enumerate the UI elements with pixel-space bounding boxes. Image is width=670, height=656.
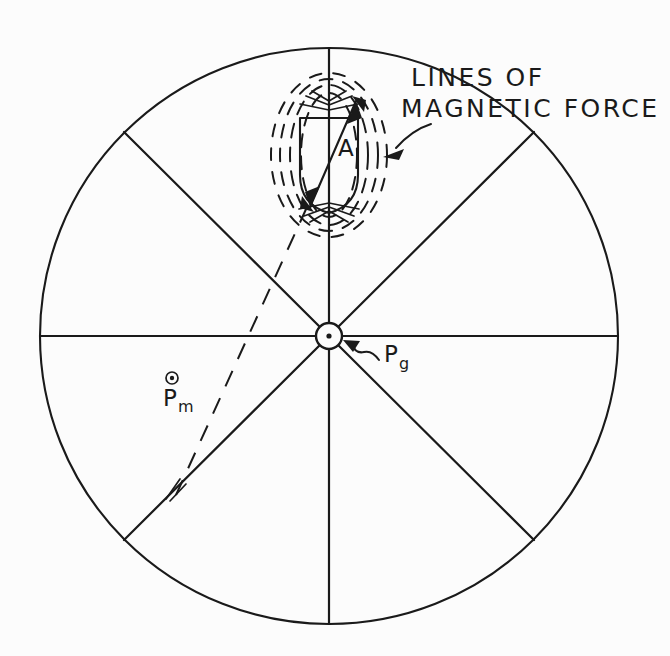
pm-label-main: P <box>163 385 177 411</box>
pg-label-main: P <box>384 341 398 367</box>
pm-label-group: P m <box>163 385 194 416</box>
pm-label-sub: m <box>178 397 194 416</box>
spoke-northwest <box>124 132 329 336</box>
pg-label-sub: g <box>399 354 409 373</box>
hub-center-dot <box>326 333 331 338</box>
pg-leader-line <box>352 345 379 360</box>
annotation-line-1: LINES OF <box>411 63 545 92</box>
spoke-southwest <box>124 336 329 540</box>
spoke-southeast <box>329 336 534 540</box>
coil-label: A <box>338 135 354 161</box>
pg-label-group: P g <box>384 341 409 373</box>
annotation-line-2: MAGNETIC FORCE <box>401 94 660 123</box>
technical-diagram: A LINES OF MAGNETIC FORCE P g P m <box>0 0 670 656</box>
pole-line-top-5 <box>300 104 329 110</box>
diagram-canvas: A LINES OF MAGNETIC FORCE P g P m <box>0 0 670 656</box>
pg-leader-arrowhead <box>343 340 360 352</box>
spoke-northeast <box>329 132 534 336</box>
annotation-leader-line <box>396 124 431 148</box>
pm-marker-dot <box>170 376 174 380</box>
